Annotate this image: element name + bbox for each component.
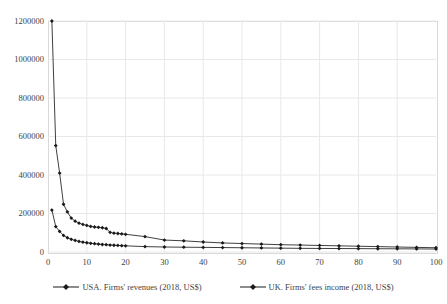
x-tick-label: 100 <box>430 258 443 267</box>
chart-legend: USA. Firms' revenues (2018, US$) UK. Fir… <box>0 282 447 292</box>
chart-container: 020000040000060000080000010000001200000 … <box>0 0 447 304</box>
legend-item-uk[interactable]: UK. Firms' fees income (2018, US$) <box>240 282 394 292</box>
x-axis-tick-labels: 0102030405060708090100 <box>0 0 447 304</box>
x-tick-label: 40 <box>199 258 208 267</box>
x-tick-label: 50 <box>238 258 247 267</box>
legend-item-usa[interactable]: USA. Firms' revenues (2018, US$) <box>53 282 201 292</box>
x-tick-label: 70 <box>315 258 324 267</box>
legend-marker-uk-icon <box>240 282 266 292</box>
legend-marker-usa-icon <box>53 282 79 292</box>
x-tick-label: 60 <box>277 258 286 267</box>
legend-label-usa: USA. Firms' revenues (2018, US$) <box>82 282 201 292</box>
legend-label-uk: UK. Firms' fees income (2018, US$) <box>269 282 394 292</box>
x-tick-label: 20 <box>121 258 130 267</box>
x-tick-label: 90 <box>393 258 402 267</box>
x-tick-label: 0 <box>46 258 50 267</box>
x-tick-label: 30 <box>160 258 169 267</box>
x-tick-label: 10 <box>83 258 92 267</box>
x-tick-label: 80 <box>354 258 363 267</box>
